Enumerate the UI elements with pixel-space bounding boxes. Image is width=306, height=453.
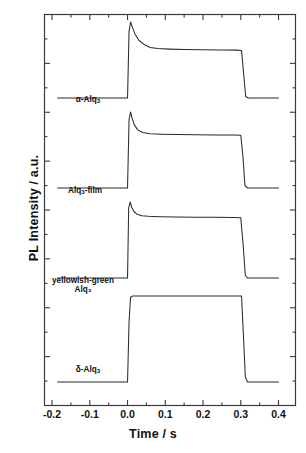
subscript: 3 [81, 188, 84, 195]
curve-label-line1: δ-Alq3 [76, 365, 100, 374]
axes-frame [45, 15, 296, 406]
plot-frame [45, 15, 296, 406]
curve-label-yellowish-green-alq3: yellowish-greenAlq₃ [38, 276, 128, 294]
curve-label-line1: α-Alq3 [76, 95, 100, 104]
curve-label-alq3-film: Alq3-film [46, 186, 124, 196]
curve-label-line2: Alq₃ [38, 285, 128, 294]
curve-label-delta-alq3: δ-Alq3 [52, 365, 124, 375]
x-axis-title: Time / s [0, 427, 306, 441]
subscript: 3 [97, 97, 100, 104]
curve-label-line1: Alq3-film [68, 186, 102, 195]
x-tick-label: 0.4 [257, 408, 301, 420]
curve-label-line1: yellowish-green [52, 276, 114, 285]
subscript: 3 [97, 367, 100, 374]
pl-intensity-figure: Time / s PL Intensity / a.u. -0.2-0.10.0… [0, 0, 306, 453]
curve-label-alpha-alq3: α-Alq3 [52, 95, 124, 105]
plot-canvas [0, 0, 306, 453]
